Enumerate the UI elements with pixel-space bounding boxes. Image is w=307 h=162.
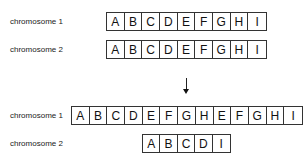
gene-segment: H — [231, 13, 249, 30]
gene-segment: C — [142, 41, 160, 58]
gene-segment: A — [107, 41, 125, 58]
gene-segment: B — [125, 41, 143, 58]
before-chromosome-2: ABCDEFGHI — [106, 40, 267, 59]
after-chromosome-1-label: chromosome 1 — [10, 111, 63, 120]
before-chromosome-2-label: chromosome 2 — [10, 45, 63, 54]
gene-segment: D — [125, 107, 143, 124]
gene-segment: H — [196, 107, 214, 124]
after-chromosome-1: ABCDEFGHEFGHI — [71, 106, 303, 125]
gene-segment: C — [107, 107, 125, 124]
gene-segment: A — [143, 135, 160, 152]
after-chromosome-2-label: chromosome 2 — [10, 139, 63, 148]
gene-segment: I — [284, 107, 302, 124]
gene-segment: E — [214, 107, 232, 124]
gene-segment: F — [160, 107, 178, 124]
before-chromosome-1: ABCDEFGHI — [106, 12, 267, 31]
gene-segment: F — [231, 107, 249, 124]
gene-segment: G — [178, 107, 196, 124]
gene-segment: B — [90, 107, 108, 124]
gene-segment: H — [231, 41, 249, 58]
gene-segment: E — [143, 107, 161, 124]
after-chromosome-2: ABCDI — [142, 134, 231, 153]
gene-segment: D — [160, 41, 178, 58]
gene-segment: B — [160, 135, 177, 152]
gene-segment: F — [195, 13, 213, 30]
gene-segment: G — [213, 41, 231, 58]
before-chromosome-1-label: chromosome 1 — [10, 17, 63, 26]
gene-segment: G — [213, 13, 231, 30]
gene-segment: H — [267, 107, 285, 124]
gene-segment: A — [107, 13, 125, 30]
gene-segment: D — [195, 135, 212, 152]
gene-segment: E — [178, 13, 196, 30]
gene-segment: I — [213, 135, 230, 152]
gene-segment: D — [160, 13, 178, 30]
gene-segment: B — [125, 13, 143, 30]
gene-segment: E — [178, 41, 196, 58]
gene-segment: C — [142, 13, 160, 30]
gene-segment: C — [178, 135, 195, 152]
gene-segment: I — [248, 13, 266, 30]
gene-segment: F — [195, 41, 213, 58]
gene-segment: G — [249, 107, 267, 124]
gene-segment: I — [248, 41, 266, 58]
gene-segment: A — [72, 107, 90, 124]
